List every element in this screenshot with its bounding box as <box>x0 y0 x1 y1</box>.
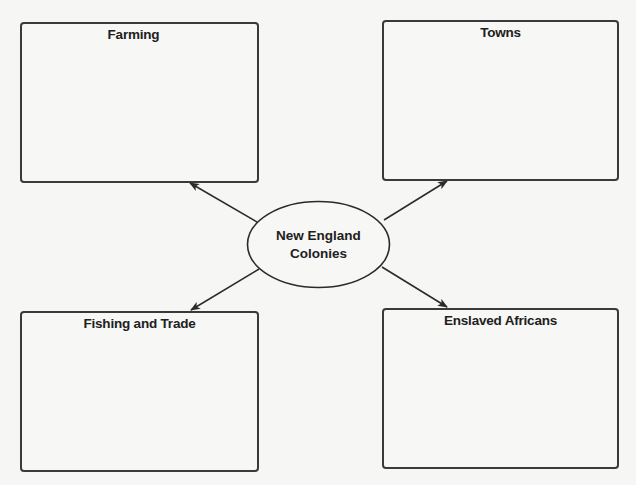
towns-answer-area[interactable] <box>390 48 611 173</box>
center-label-line1: New England <box>264 227 374 245</box>
farming-answer-area[interactable] <box>28 50 251 175</box>
enslaved-africans-title: Enslaved Africans <box>384 313 617 328</box>
fishing-trade-answer-area[interactable] <box>28 339 251 464</box>
enslaved-africans-box: Enslaved Africans <box>382 308 619 469</box>
farming-title: Farming <box>22 27 257 42</box>
enslaved-africans-answer-area[interactable] <box>390 336 611 461</box>
concept-web-diagram: New England Colonies Farming Towns Fishi… <box>0 0 636 485</box>
farming-box: Farming <box>20 22 259 183</box>
towns-box: Towns <box>382 20 619 181</box>
fishing-trade-title: Fishing and Trade <box>22 316 257 331</box>
arrow-to-towns <box>384 181 447 220</box>
fishing-trade-box: Fishing and Trade <box>20 311 259 472</box>
center-node: New England Colonies <box>247 201 390 288</box>
towns-title: Towns <box>384 25 617 40</box>
center-label: New England Colonies <box>264 227 374 263</box>
arrow-to-enslaved <box>382 267 447 307</box>
center-label-line2: Colonies <box>264 245 374 263</box>
